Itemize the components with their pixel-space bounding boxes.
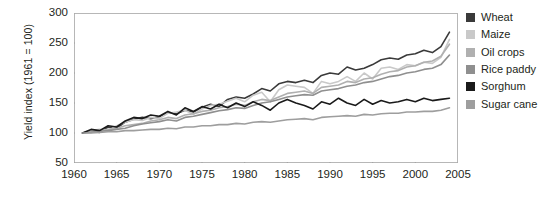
x-tick-label: 2005: [435, 168, 481, 180]
legend-label: Wheat: [481, 12, 513, 23]
legend-label: Sorghum: [481, 81, 526, 92]
plot-svg: [74, 13, 458, 163]
x-tick-label: 1965: [94, 168, 140, 180]
legend-item-sorghum[interactable]: Sorghum: [466, 78, 552, 95]
legend-swatch-icon: [466, 30, 475, 39]
legend-item-oil-crops[interactable]: Oil crops: [466, 44, 552, 61]
y-tick-label: 50: [34, 157, 68, 169]
y-tick-label: 250: [34, 37, 68, 49]
plot-area: [74, 13, 458, 163]
legend-label: Oil crops: [481, 47, 524, 58]
chart-legend: WheatMaizeOil cropsRice paddySorghumSuga…: [466, 9, 552, 113]
y-tick-label: 100: [34, 127, 68, 139]
x-tick-label: 1970: [136, 168, 182, 180]
legend-swatch-icon: [466, 65, 475, 74]
x-tick-label: 1990: [307, 168, 353, 180]
legend-label: Rice paddy: [481, 64, 536, 75]
x-tick-label: 1975: [179, 168, 225, 180]
y-tick-label: 300: [34, 7, 68, 19]
chart-figure: Yield index (1961 = 100) 501001502002503…: [0, 0, 552, 217]
x-tick-label: 2000: [392, 168, 438, 180]
x-tick-label: 1960: [51, 168, 97, 180]
legend-item-sugar-cane[interactable]: Sugar cane: [466, 95, 552, 112]
legend-swatch-icon: [466, 82, 475, 91]
legend-swatch-icon: [466, 13, 475, 22]
legend-item-wheat[interactable]: Wheat: [466, 9, 552, 26]
legend-label: Maize: [481, 29, 510, 40]
x-tick-label: 1985: [264, 168, 310, 180]
legend-item-rice-paddy[interactable]: Rice paddy: [466, 61, 552, 78]
x-axis-tick-labels: 1960196519701975198019851990199520002005: [0, 168, 552, 188]
legend-item-maize[interactable]: Maize: [466, 26, 552, 43]
legend-label: Sugar cane: [481, 99, 537, 110]
x-tick-label: 1980: [222, 168, 268, 180]
series-line-sorghum: [83, 98, 450, 133]
x-tick-label: 1995: [350, 168, 396, 180]
legend-swatch-icon: [466, 48, 475, 57]
legend-swatch-icon: [466, 100, 475, 109]
y-tick-label: 200: [34, 67, 68, 79]
y-tick-label: 150: [34, 97, 68, 109]
